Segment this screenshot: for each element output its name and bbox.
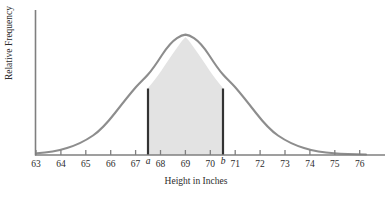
x-tick-label-74: 74 bbox=[299, 159, 321, 170]
normal-distribution-figure: 63 64 65 66 67 68 69 70 71 72 73 74 75 7… bbox=[0, 0, 392, 199]
y-axis-title: Relative Frequency bbox=[4, 0, 14, 93]
x-tick-label-76: 76 bbox=[349, 159, 371, 170]
lower-bound-label: a bbox=[142, 156, 154, 166]
shaded-area-group bbox=[148, 37, 223, 155]
x-tick-label-73: 73 bbox=[274, 159, 296, 170]
x-tick-label-69: 69 bbox=[174, 159, 196, 170]
x-tick-label-66: 66 bbox=[100, 159, 122, 170]
x-tick-label-72: 72 bbox=[249, 159, 271, 170]
x-tick-label-75: 75 bbox=[324, 159, 346, 170]
x-tick-label-65: 65 bbox=[75, 159, 97, 170]
x-axis-title: Height in Inches bbox=[0, 176, 392, 186]
upper-bound-label: b bbox=[217, 156, 229, 166]
x-tick-label-63: 63 bbox=[25, 159, 47, 170]
x-tick-label-64: 64 bbox=[50, 159, 72, 170]
shaded-region-fill bbox=[148, 37, 223, 155]
